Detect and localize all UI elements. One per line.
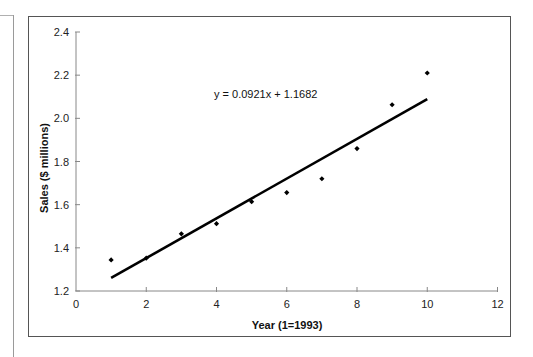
- data-point: [425, 70, 430, 75]
- y-tick-label: 1.2: [54, 285, 69, 297]
- x-tick-label: 10: [421, 298, 433, 310]
- y-tick-label: 2.0: [54, 112, 69, 124]
- data-point: [109, 257, 114, 262]
- ticks: 0246810121.21.41.61.82.02.22.4: [54, 26, 504, 310]
- data-point: [179, 231, 184, 236]
- data-point: [319, 176, 324, 181]
- x-tick-label: 8: [354, 298, 360, 310]
- y-tick-label: 1.8: [54, 156, 69, 168]
- axes: [76, 32, 498, 291]
- y-tick-label: 1.6: [54, 199, 69, 211]
- x-tick-label: 6: [284, 298, 290, 310]
- data-point: [390, 102, 395, 107]
- x-tick-label: 0: [73, 298, 79, 310]
- data-point: [284, 190, 289, 195]
- y-tick-label: 2.4: [54, 26, 69, 38]
- data-point: [354, 146, 359, 151]
- scatter-chart: 0246810121.21.41.61.82.02.22.4 y = 0.092…: [0, 0, 533, 357]
- y-tick-label: 1.4: [54, 242, 69, 254]
- x-axis-title: Year (1=1993): [252, 319, 323, 331]
- x-tick-label: 12: [491, 298, 503, 310]
- y-axis-title: Sales ($ millions): [38, 123, 50, 213]
- data-point: [214, 221, 219, 226]
- x-tick-label: 4: [213, 298, 219, 310]
- y-tick-label: 2.2: [54, 69, 69, 81]
- x-tick-label: 2: [143, 298, 149, 310]
- trendline: [111, 99, 427, 278]
- trendline-equation: y = 0.0921x + 1.1682: [214, 88, 317, 100]
- trendline-group: [111, 99, 427, 278]
